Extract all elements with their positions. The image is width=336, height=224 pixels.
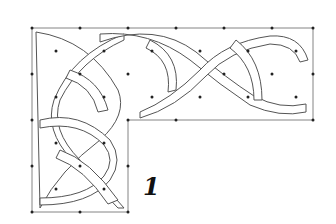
horizontal-knot-bands — [100, 34, 308, 118]
vertical-knot-bands — [36, 32, 124, 208]
knotwork-diagram — [0, 0, 336, 224]
figure-number-label: 1 — [143, 172, 160, 201]
